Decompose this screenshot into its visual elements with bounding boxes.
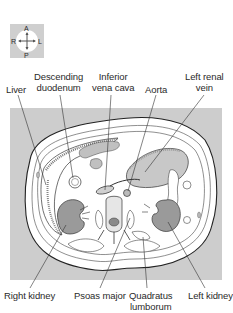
label-quadratus-lumborum: Quadratus lumborum [129,290,172,312]
label-right-kidney: Right kidney [4,290,55,301]
vertebral-body [106,196,122,232]
label-left-kidney: Left kidney [188,290,233,301]
label-psoas-major: Psoas major [74,290,126,301]
left-kidney [152,200,180,232]
spinal-cord [109,218,119,226]
aorta [124,190,131,197]
abdominal-cross-section-diagram [0,0,233,313]
right-kidney [57,200,84,234]
